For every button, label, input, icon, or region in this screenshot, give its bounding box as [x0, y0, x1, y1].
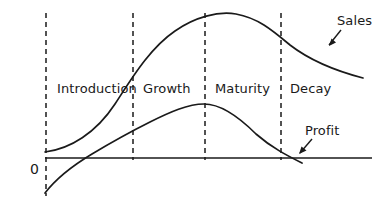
stage-label-maturity: Maturity — [215, 82, 270, 95]
series-label-profit: Profit — [305, 124, 340, 137]
profit-curve — [45, 104, 302, 193]
stage-label-decay: Decay — [290, 82, 331, 95]
stage-label-growth: Growth — [143, 82, 191, 95]
product-life-cycle-diagram: Introduction Growth Maturity Decay Sales… — [0, 0, 385, 205]
series-label-sales: Sales — [337, 14, 372, 27]
diagram-canvas — [0, 0, 385, 205]
axis-zero-label: 0 — [30, 162, 39, 176]
sales-annotation-arrow — [329, 30, 341, 46]
stage-label-introduction: Introduction — [57, 82, 137, 95]
profit-annotation-arrow — [299, 139, 312, 154]
